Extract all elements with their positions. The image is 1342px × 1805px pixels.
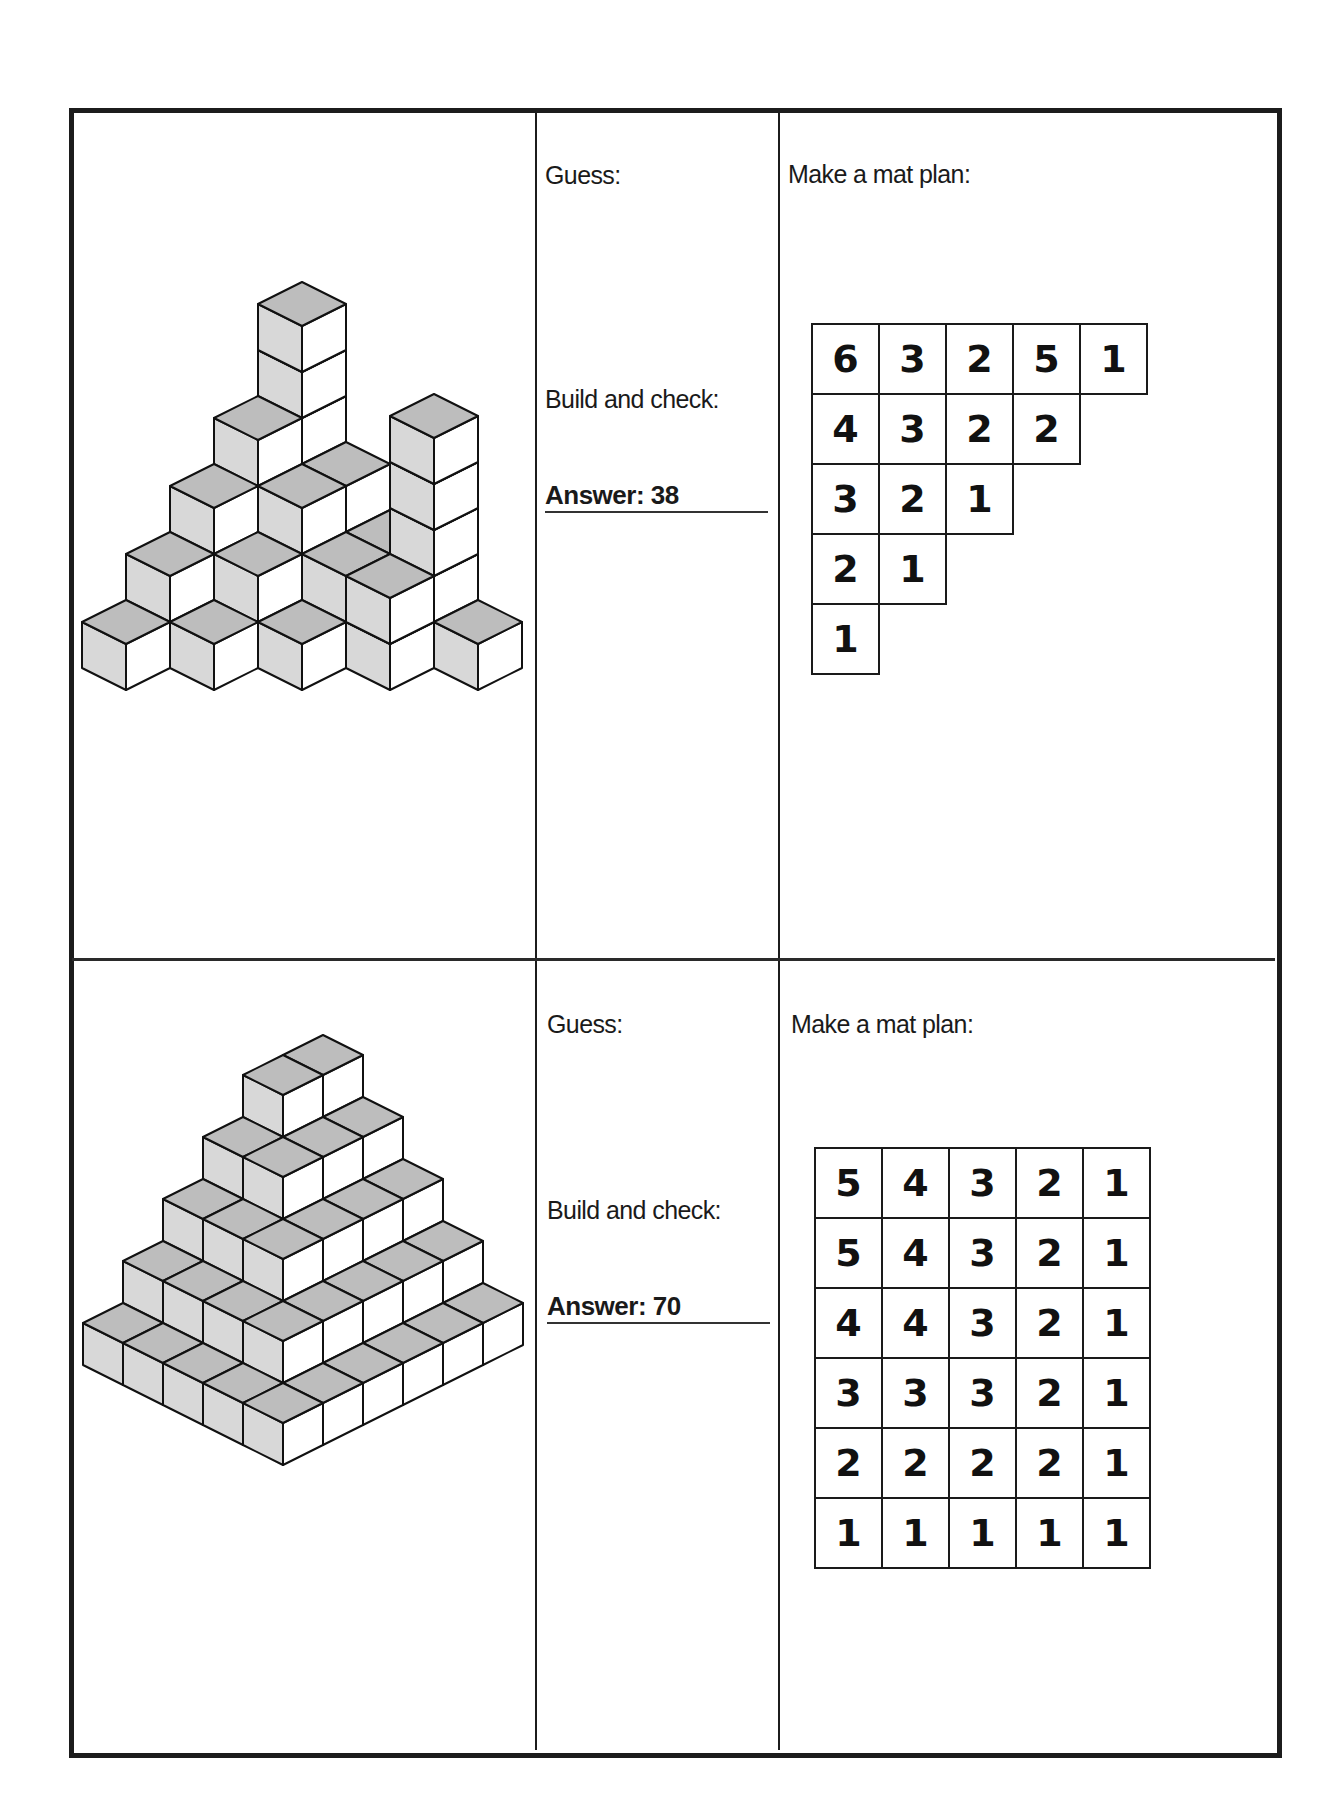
mat-plan-cell: 1 — [948, 1497, 1017, 1569]
answer-underline — [547, 1322, 770, 1324]
mat-plan-cell: 3 — [814, 1357, 883, 1429]
mat-plan-cell: 3 — [881, 1357, 950, 1429]
mat-plan-cell: 1 — [1082, 1287, 1151, 1359]
answer-text: Answer: 70 — [547, 1293, 681, 1319]
mat-plan-cell: 3 — [948, 1147, 1017, 1219]
guess-label: Guess: — [547, 1011, 623, 1037]
mat-plan-cell: 2 — [1015, 1147, 1084, 1219]
mat-plan-label: Make a mat plan: — [791, 1011, 973, 1037]
mat-plan-cell: 1 — [814, 1497, 883, 1569]
mat-plan-cell: 1 — [1082, 1357, 1151, 1429]
mat-plan-cell: 3 — [948, 1357, 1017, 1429]
mat-plan-cell: 4 — [881, 1147, 950, 1219]
mat-plan-cell: 1 — [1082, 1497, 1151, 1569]
mat-plan-cell: 4 — [814, 1287, 883, 1359]
mat-plan-cell: 1 — [1082, 1217, 1151, 1289]
mat-plan-cell: 2 — [1015, 1287, 1084, 1359]
mat-plan-cell: 2 — [1015, 1357, 1084, 1429]
mat-plan-cell: 2 — [1015, 1217, 1084, 1289]
mat-plan-cell: 2 — [881, 1427, 950, 1499]
mat-plan-cell: 3 — [948, 1217, 1017, 1289]
mat-plan-cell: 3 — [948, 1287, 1017, 1359]
mat-plan-cell: 1 — [1082, 1147, 1151, 1219]
mat-plan-cell: 4 — [881, 1287, 950, 1359]
mat-plan-cell: 2 — [1015, 1427, 1084, 1499]
mat-plan-cell: 5 — [814, 1217, 883, 1289]
mat-plan-cell: 2 — [948, 1427, 1017, 1499]
mat-plan-cell: 1 — [1082, 1427, 1151, 1499]
mat-plan-cell: 1 — [881, 1497, 950, 1569]
mat-plan-cell: 2 — [814, 1427, 883, 1499]
build-and-check-label: Build and check: — [547, 1197, 721, 1223]
mat-plan-cell: 1 — [1015, 1497, 1084, 1569]
mat-plan-cell: 5 — [814, 1147, 883, 1219]
mat-plan-cell: 4 — [881, 1217, 950, 1289]
